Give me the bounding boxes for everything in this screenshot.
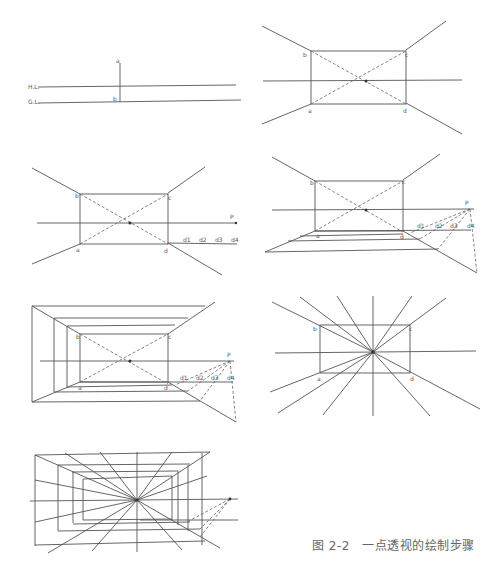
point-a-label: a xyxy=(78,384,82,391)
point-a-label: a xyxy=(316,232,320,239)
point-b-label: b xyxy=(313,325,317,332)
point-c-label: c xyxy=(168,194,171,201)
point-b-label: b xyxy=(76,333,80,340)
point-c-label: c xyxy=(402,178,405,185)
panel-4: b c P a d d1 d2 d3 d4 xyxy=(265,154,477,273)
point-p-label: P xyxy=(230,213,234,220)
point-p-label: P xyxy=(465,199,469,206)
point-d-label: d xyxy=(164,247,168,254)
panel-2: b c a d xyxy=(262,21,462,134)
hl-label: H.L. xyxy=(28,83,40,90)
point-a-label: a xyxy=(317,375,321,382)
point-c-label: c xyxy=(405,51,408,58)
d2-label: d2 xyxy=(199,236,207,243)
gl-label: G.L. xyxy=(28,98,40,105)
perspective-diagram: H.L. G.L. a b b c a d b c a d P xyxy=(0,0,501,568)
point-a-label: a xyxy=(76,246,80,253)
point-b-label: b xyxy=(303,51,307,58)
point-c-label: c xyxy=(168,333,171,340)
point-c-label: c xyxy=(409,325,412,332)
point-a-label: a xyxy=(308,107,312,114)
d1-label: d1 xyxy=(417,222,425,229)
d2-label: d2 xyxy=(435,222,443,229)
figure-caption: 图 2-2 一点透视的绘制步骤 xyxy=(312,536,475,553)
point-d-label: d xyxy=(164,384,168,391)
d3-label: d3 xyxy=(450,222,458,229)
panel-3: b c a d P d1 d2 d3 d4 xyxy=(32,167,239,275)
point-b-label: b xyxy=(310,179,314,186)
d3-label: d3 xyxy=(215,236,223,243)
panel-7 xyxy=(30,452,238,553)
point-p-label: P xyxy=(227,351,231,358)
panel-6: b c a d xyxy=(270,296,480,416)
point-d-label: d xyxy=(400,233,404,240)
d2-label: d2 xyxy=(196,374,204,381)
d3-label: d3 xyxy=(211,374,219,381)
panel-5: b c P a d d1 d2 d3 d4 xyxy=(32,302,236,422)
panel-1: H.L. G.L. a b xyxy=(28,57,241,105)
d4-label: d4 xyxy=(231,236,239,243)
point-b-label: b xyxy=(113,95,117,102)
point-a-label: a xyxy=(116,57,120,64)
point-d-label: d xyxy=(410,375,414,382)
d4-label: d4 xyxy=(227,374,235,381)
d4-label: d4 xyxy=(467,222,475,229)
point-b-label: b xyxy=(75,192,79,199)
d1-label: d1 xyxy=(180,374,188,381)
point-d-label: d xyxy=(403,107,407,114)
d1-label: d1 xyxy=(183,236,191,243)
